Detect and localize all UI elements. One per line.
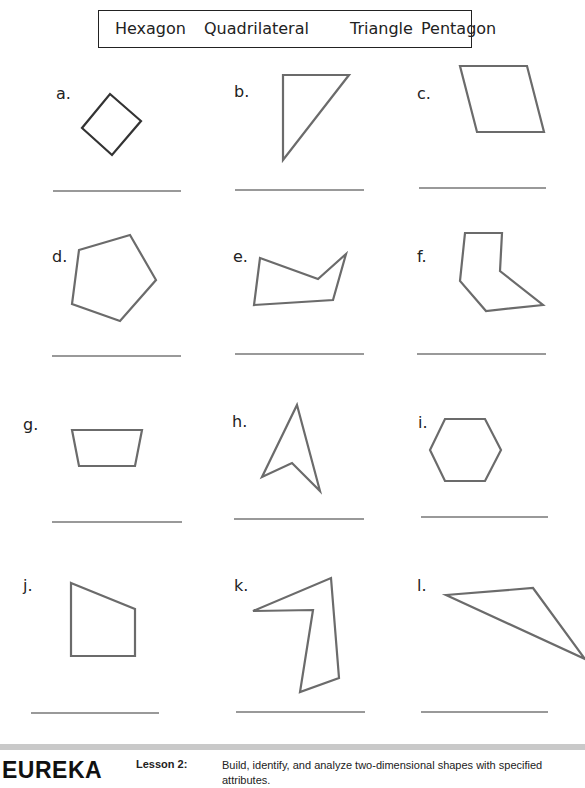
shape-c-parallelogram <box>460 66 544 132</box>
shape-h-arrowhead <box>262 405 320 491</box>
shape-g-trapezoid <box>72 430 142 466</box>
shape-b-triangle <box>283 75 349 160</box>
lesson-description: Build, identify, and analyze two-dimensi… <box>222 758 562 788</box>
shape-j-pentagon <box>71 583 135 656</box>
shape-i-hexagon <box>430 419 501 481</box>
lesson-label: Lesson 2: <box>136 758 187 770</box>
shape-k-concave-pentagon <box>253 578 339 692</box>
footer-divider <box>0 744 585 750</box>
shape-d-pentagon <box>72 235 156 321</box>
shape-f-concave-hexagon <box>460 233 543 311</box>
shape-e-concave-pentagon <box>254 254 346 305</box>
shape-a-square <box>82 94 141 155</box>
shape-l-triangle <box>446 588 585 659</box>
eureka-logo: EUREKA <box>2 757 102 784</box>
